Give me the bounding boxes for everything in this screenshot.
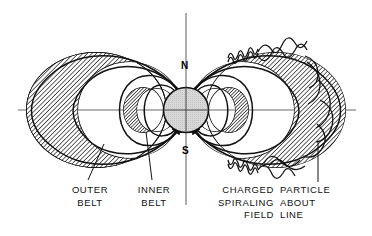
radiation-belt-diagram: N S OUTER BELT INNER BELT CHARGED SPIRAL… [0,0,372,236]
inner-belt-label: INNER BELT [126,184,182,209]
outer-belt-label: OUTER BELT [60,184,120,209]
earth-sphere [164,88,209,133]
leader-inner-belt [146,132,152,180]
north-pole-label: N [181,60,189,71]
charged-particle-label-col2: PARTICLE ABOUT LINE [280,184,342,222]
south-pole-label: S [182,145,189,156]
charged-particle-label-col1: CHARGED SPIRALING FIELD [212,184,274,222]
